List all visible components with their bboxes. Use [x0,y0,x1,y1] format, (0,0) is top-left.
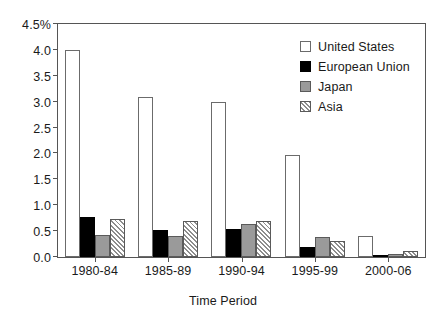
y-axis-tick: 3.0 [33,95,57,109]
y-axis-tick-mark [53,23,57,24]
bar-chart: 0.00.51.01.52.02.53.03.54.04.5% 1980-841… [0,0,446,330]
legend-item-label: European Union [318,60,410,74]
legend-item-label: Asia [318,100,343,114]
bar-eu-2000-06 [373,255,388,257]
x-axis-tick-label: 2000-06 [365,264,412,278]
y-axis-tick-label: 0.5 [33,225,57,239]
y-axis-tick-mark [53,101,57,102]
bar-us-1980-84 [65,50,80,257]
legend-item: United States [300,38,420,55]
chart-legend: United StatesEuropean UnionJapanAsia [300,38,420,118]
y-axis-tick-label: 3.0 [33,96,57,110]
bar-eu-1985-89 [153,230,168,257]
y-axis-tick: 4.5% [22,17,57,31]
y-axis-tick: 2.0 [33,146,57,160]
legend-item-label: United States [318,40,394,54]
legend-item: European Union [300,58,420,75]
bar-eu-1980-84 [80,217,95,257]
x-axis-tick-mark [95,258,96,262]
y-axis-tick-label: 4.5% [22,18,57,32]
bar-jp-1995-99 [315,237,330,257]
bar-group-bars [58,24,131,257]
y-axis-tick-mark [53,152,57,153]
y-axis-tick-mark [53,256,57,257]
x-axis-tick-mark [242,258,243,262]
bar-asia-1980-84 [110,219,125,257]
legend-swatch-icon [300,81,311,92]
bar-asia-1990-94 [256,221,271,257]
y-axis-tick-label: 2.5 [33,122,57,136]
y-axis-tick-mark [53,127,57,128]
legend-swatch-icon [300,61,311,72]
y-axis-tick: 4.0 [33,43,57,57]
bar-us-1990-94 [211,102,226,257]
y-axis-tick-label: 3.5 [33,70,57,84]
bar-group [131,24,204,257]
x-axis-tick-label: 1995-99 [292,264,339,278]
legend-swatch-icon [300,41,311,52]
bar-asia-1995-99 [330,241,345,257]
bar-jp-1985-89 [168,236,183,257]
y-axis-tick: 0.0 [33,250,57,264]
y-axis-tick-mark [53,75,57,76]
y-axis-tick-mark [53,204,57,205]
x-axis-tick-label: 1985-89 [145,264,192,278]
y-axis-tick: 1.0 [33,198,57,212]
y-axis-tick-label: 4.0 [33,44,57,58]
bar-group [58,24,131,257]
bar-eu-1995-99 [300,247,315,257]
x-axis-title: Time Period [0,294,446,308]
y-axis-tick: 1.5 [33,172,57,186]
x-axis-tick-mark [315,258,316,262]
x-axis-tick-mark [388,258,389,262]
y-axis-tick: 2.5 [33,121,57,135]
bar-asia-1985-89 [183,221,198,257]
x-axis-tick-label: 1990-94 [218,264,265,278]
legend-item-label: Japan [318,80,353,94]
bar-group [205,24,278,257]
y-axis-tick: 0.5 [33,224,57,238]
bar-jp-1980-84 [95,235,110,257]
y-axis-tick-label: 2.0 [33,147,57,161]
bar-group-bars [131,24,204,257]
x-axis-labels: 1980-841985-891990-941995-992000-06 [58,264,425,284]
y-axis: 0.00.51.01.52.02.53.03.54.04.5% [0,0,57,259]
bar-jp-2000-06 [388,254,403,257]
x-axis-tick-label: 1980-84 [71,264,118,278]
legend-item: Japan [300,78,420,95]
legend-item: Asia [300,98,420,115]
bar-jp-1990-94 [241,224,256,257]
bar-eu-1990-94 [226,229,241,257]
bar-group-bars [205,24,278,257]
y-axis-tick-mark [53,178,57,179]
bar-us-2000-06 [358,236,373,257]
legend-swatch-icon [300,101,311,112]
y-axis-tick: 3.5 [33,69,57,83]
y-axis-tick-label: 1.5 [33,173,57,187]
bar-us-1985-89 [138,97,153,258]
x-axis-tick-mark [168,258,169,262]
bar-asia-2000-06 [403,251,418,257]
y-axis-tick-mark [53,230,57,231]
y-axis-tick-mark [53,49,57,50]
y-axis-tick-label: 0.0 [33,251,57,265]
y-axis-tick-label: 1.0 [33,199,57,213]
bar-us-1995-99 [285,155,300,257]
